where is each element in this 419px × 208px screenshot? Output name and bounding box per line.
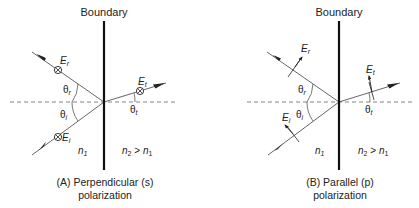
theta-i-arc xyxy=(307,102,313,121)
label-theta-r: θr xyxy=(63,84,72,96)
label-er: Er xyxy=(301,43,311,55)
theta-r-arc xyxy=(307,84,313,102)
label-et: Et xyxy=(138,76,148,88)
theta-t-arc xyxy=(134,93,135,102)
field-into-page-icon-et xyxy=(136,87,143,94)
polarization-diagram: Boundary xyxy=(0,0,419,208)
label-er: Er xyxy=(60,55,70,67)
diagram-canvas: Boundary xyxy=(0,0,419,208)
boundary-label: Boundary xyxy=(80,6,128,18)
panel-a: Boundary xyxy=(10,6,176,201)
field-into-page-icon-er xyxy=(54,66,61,73)
caption-line1: (B) Parallel (p) xyxy=(306,176,374,188)
panel-b: Boundary Er Et Ei xyxy=(247,6,412,201)
reflected-arrow-icon xyxy=(273,55,281,61)
transmitted-arrow-icon xyxy=(153,83,165,89)
label-n1: n1 xyxy=(315,145,325,157)
theta-t-arc xyxy=(369,93,370,102)
label-theta-i: θi xyxy=(296,109,304,121)
label-theta-i: θi xyxy=(60,109,68,121)
theta-r-arc xyxy=(72,84,78,102)
label-et: Et xyxy=(366,64,376,76)
incident-ray xyxy=(268,102,339,155)
label-theta-r: θr xyxy=(298,84,307,96)
theta-i-arc xyxy=(72,102,78,121)
label-ei: Ei xyxy=(62,132,71,144)
caption-line2: polarization xyxy=(313,189,367,201)
label-n1: n1 xyxy=(78,145,88,157)
label-theta-t: θt xyxy=(365,104,374,116)
label-n2-gt-n1: n2 > n1 xyxy=(122,145,152,157)
field-in-plane-icon-er xyxy=(288,57,302,77)
caption-line2: polarization xyxy=(78,189,132,201)
label-ei: Ei xyxy=(282,112,291,124)
label-theta-t: θt xyxy=(130,104,139,116)
field-into-page-icon-ei xyxy=(54,133,61,140)
boundary-label: Boundary xyxy=(315,6,363,18)
transmitted-arrow-icon xyxy=(387,83,399,89)
incident-ray xyxy=(32,102,104,155)
caption-line1: (A) Perpendicular (s) xyxy=(57,176,154,188)
label-n2-gt-n1: n2 > n1 xyxy=(358,145,388,157)
